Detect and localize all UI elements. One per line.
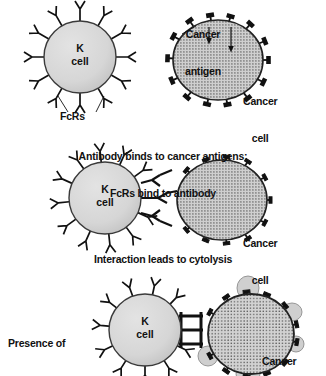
blocking-note-line1: Presence of (8, 337, 102, 349)
cancer-cell-label-3: Cancer cell (262, 330, 296, 376)
cancer-antigen-label-line2: antigen (185, 65, 221, 77)
k-cell-label-1-line1: K (76, 42, 84, 54)
cancer-cell-label-2-line2: cell (243, 274, 277, 286)
cancer-cell-label-3-line1: Cancer (262, 355, 296, 367)
caption-cytolysis: Interaction leads to cytolysis (0, 253, 326, 265)
panel-1 (24, 1, 270, 113)
caption-antibody-binds: Antibody binds to cancer antigens: FcRs … (0, 125, 326, 212)
k-cell-label-1-line2: cell (71, 55, 89, 67)
caption-antibody-binds-line2: FcRs bind to antibody (0, 187, 326, 199)
cancer-antigen-label-line1: Cancer (185, 28, 221, 40)
k-cell-label-3-line2: cell (136, 328, 154, 340)
k-cell-label-3-line1: K (141, 315, 149, 327)
cancer-cell-label-1-line1: Cancer (243, 95, 277, 107)
caption-antibody-binds-line1: Antibody binds to cancer antigens: (0, 150, 326, 162)
fcrs-label: FcRs (60, 110, 85, 122)
blocking-immune-complexes (179, 312, 203, 348)
blocking-note: Presence of immune complexes in blood or… (8, 312, 102, 376)
cancer-antigen-label: Cancer antigen (185, 3, 221, 90)
cancer-cell-label-2-line1: Cancer (243, 237, 277, 249)
